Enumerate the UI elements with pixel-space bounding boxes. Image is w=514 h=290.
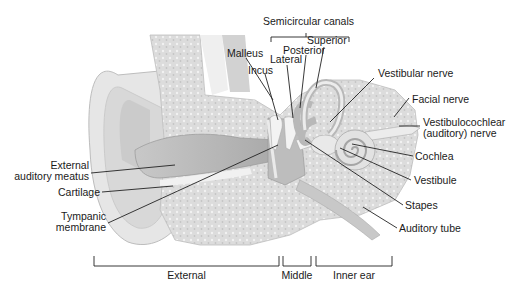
region-label-middle: Middle <box>279 270 315 281</box>
label-tympanic-line2: membrane <box>0 222 106 233</box>
label-auditory-tube: Auditory tube <box>399 223 461 234</box>
label-stapes: Stapes <box>405 200 438 211</box>
region-brackets <box>94 256 392 266</box>
label-semicircular-canals: Semicircular canals <box>263 16 354 27</box>
bracket-external <box>94 256 279 266</box>
label-external-meatus-line2: auditory meatus <box>0 171 89 182</box>
label-vestibular-nerve: Vestibular nerve <box>378 68 453 79</box>
label-incus: Incus <box>248 65 273 76</box>
ear-illustration <box>0 0 514 290</box>
label-cartilage: Cartilage <box>0 187 100 198</box>
label-lateral: Lateral <box>270 54 302 65</box>
bracket-inner <box>316 256 392 266</box>
region-label-inner: Inner ear <box>316 270 392 281</box>
label-facial-nerve: Facial nerve <box>412 94 469 105</box>
label-cochlea: Cochlea <box>415 151 454 162</box>
bracket-middle <box>283 256 311 266</box>
label-malleus: Malleus <box>227 48 263 59</box>
ear-anatomy-diagram: Semicircular canals Superior Posterior L… <box>0 0 514 290</box>
label-vestibule: Vestibule <box>414 175 457 186</box>
label-vestibulocochlear-line2: (auditory) nerve <box>423 128 497 139</box>
region-label-external: External <box>94 270 279 281</box>
